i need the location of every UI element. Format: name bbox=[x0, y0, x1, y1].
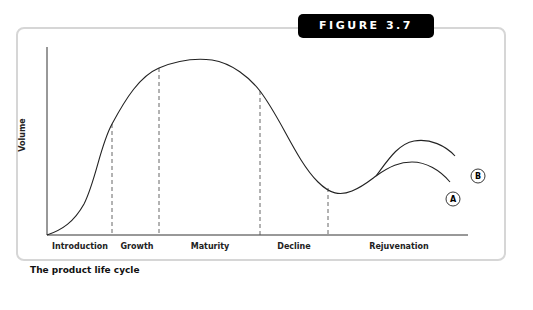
figure-caption: The product life cycle bbox=[30, 265, 140, 275]
branch-a-label: A bbox=[450, 195, 457, 204]
main-curve bbox=[47, 59, 376, 235]
phase-introduction: Introduction bbox=[52, 242, 108, 251]
branch-b-curve bbox=[376, 140, 455, 176]
phase-maturity: Maturity bbox=[191, 242, 230, 251]
life-cycle-chart: B A bbox=[0, 0, 533, 310]
branch-b-label: B bbox=[475, 172, 481, 181]
phase-growth: Growth bbox=[121, 242, 154, 251]
phase-decline: Decline bbox=[277, 242, 310, 251]
phase-rejuvenation: Rejuvenation bbox=[369, 242, 429, 251]
branch-a-curve bbox=[376, 162, 450, 182]
y-axis-label: Volume bbox=[18, 118, 27, 151]
